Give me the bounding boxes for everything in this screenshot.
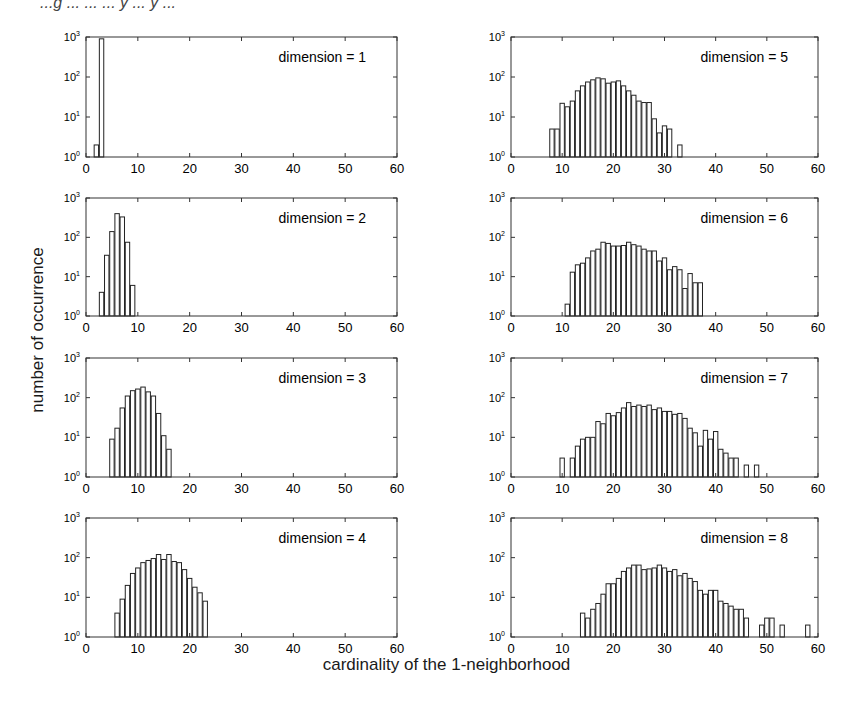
histogram-bar [606,243,610,316]
histogram-bar [575,91,579,157]
histogram-bar [627,242,631,316]
histogram-bar [601,79,605,157]
histogram-bar [673,570,677,637]
y-tick-label: 100 [489,630,505,643]
histogram-bar [611,416,615,477]
histogram-bar [632,95,636,157]
subplot-dimension-3: 0102030405060100101102103dimension = 3 [64,351,404,496]
histogram-bar [575,446,579,477]
subplot-dimension-5: 0102030405060100101102103dimension = 5 [489,30,825,176]
histogram-bar [151,396,155,477]
histogram-bar [606,83,610,157]
histogram-bar [673,414,677,477]
histogram-bar [657,408,661,477]
histogram-bar [105,255,109,316]
histogram-bar [570,101,574,157]
histogram-bar [734,458,738,477]
histogram-bar [652,251,656,316]
histogram-bar [177,563,181,637]
y-tick-label: 101 [489,590,505,603]
histogram-bar [616,246,620,316]
histogram-bar [688,428,692,477]
y-tick-label: 103 [489,30,505,43]
y-tick-label: 102 [489,230,505,243]
y-tick-label: 101 [64,270,80,283]
histogram-bar [580,439,584,477]
histogram-bar [678,145,682,157]
x-tick-label: 20 [182,641,196,656]
histogram-bar [698,590,702,637]
histogram-bar [606,584,610,637]
x-tick-label: 60 [811,481,825,496]
histogram-bar [652,410,656,477]
histogram-bar [198,593,202,637]
histogram-bar [611,82,615,157]
histogram-bar [141,387,145,477]
x-tick-label: 10 [555,481,569,496]
histogram-bar [703,430,707,477]
x-tick-label: 60 [390,641,404,656]
histogram-bar [586,618,590,637]
histogram-bar [182,570,186,637]
histogram-bar [125,585,129,637]
x-tick-label: 0 [82,161,89,176]
histogram-bar [754,465,758,477]
histogram-bar [580,86,584,157]
histogram-bar [136,568,140,637]
y-tick-label: 100 [489,150,505,163]
histogram-bar [652,568,656,637]
y-tick-label: 101 [489,110,505,123]
histogram-bar [156,555,160,637]
histogram-bar [115,428,119,477]
x-tick-label: 30 [657,641,671,656]
histogram-bar [678,270,682,316]
y-tick-label: 101 [64,430,80,443]
histogram-bar [642,570,646,637]
x-tick-label: 40 [286,161,300,176]
histogram-bar [596,422,600,477]
histogram-bar [632,245,636,316]
histogram-bar [591,80,595,157]
histogram-bar [99,292,103,316]
histogram-bar [647,251,651,316]
histogram-bar [642,406,646,477]
y-tick-label: 102 [64,70,80,83]
histogram-bar [110,232,114,316]
histogram-bar [565,304,569,316]
subplot-dimension-6: 0102030405060100101102103dimension = 6 [489,191,825,335]
histogram-bar [683,573,687,637]
subplot-title: dimension = 1 [279,49,367,65]
x-tick-label: 10 [131,481,145,496]
histogram-bar [642,249,646,316]
histogram-bar [637,405,641,477]
histogram-bar [601,242,605,316]
histogram-bar [621,86,625,157]
x-tick-label: 60 [390,481,404,496]
histogram-bar [167,449,171,477]
histogram-bar [586,258,590,316]
x-tick-label: 20 [606,481,620,496]
histogram-bar [616,81,620,157]
histogram-bar [678,576,682,637]
histogram-bar [130,391,134,477]
histogram-bar [99,39,103,157]
histogram-bar [647,569,651,637]
histogram-bar [611,246,615,316]
x-tick-label: 50 [338,161,352,176]
x-tick-label: 50 [338,641,352,656]
histogram-bar [555,129,559,157]
histogram-bar [586,82,590,157]
subplot-dimension-1: 0102030405060100101102103dimension = 1 [64,30,404,176]
x-tick-label: 20 [182,320,196,335]
x-tick-label: 50 [760,481,774,496]
histogram-bar [678,413,682,477]
subplot-dimension-4: 0102030405060100101102103dimension = 4 [64,511,404,656]
histogram-bar [637,565,641,637]
x-tick-label: 50 [760,161,774,176]
histogram-bar [739,609,743,637]
histogram-bar [688,274,692,316]
histogram-bar [744,618,748,637]
histogram-bar [683,418,687,477]
subplot-dimension-2: 0102030405060100101102103dimension = 2 [64,191,404,335]
y-tick-label: 100 [64,309,80,322]
